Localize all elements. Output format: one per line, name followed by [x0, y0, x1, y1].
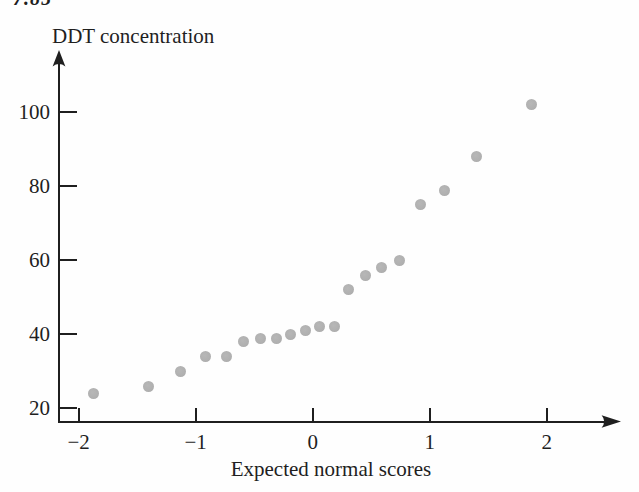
y-tick-label: 60 — [0, 247, 50, 273]
data-point — [271, 333, 282, 344]
x-axis-arrowhead-icon — [601, 415, 621, 428]
y-axis-arrowhead-icon — [52, 50, 66, 67]
data-point — [255, 333, 266, 344]
data-point — [285, 329, 296, 340]
data-point — [88, 388, 99, 399]
x-tick-label: 0 — [281, 429, 345, 455]
y-tick — [59, 185, 77, 187]
y-tick-label: 100 — [0, 99, 50, 125]
y-tick-label: 40 — [0, 321, 50, 347]
x-tick — [546, 408, 548, 422]
x-tick-label: −2 — [47, 429, 111, 455]
data-point — [175, 366, 186, 377]
data-point — [329, 321, 340, 332]
y-tick — [59, 259, 77, 261]
data-point — [238, 336, 249, 347]
y-tick-label: 80 — [0, 173, 50, 199]
x-tick-label: −1 — [164, 429, 228, 455]
y-axis-title: DDT concentration — [52, 24, 214, 49]
data-point — [439, 185, 450, 196]
x-axis-label: Expected normal scores — [211, 457, 451, 482]
data-point — [415, 199, 426, 210]
x-tick-label: 2 — [515, 429, 579, 455]
x-tick-label: 1 — [398, 429, 462, 455]
data-point — [221, 351, 232, 362]
y-tick-label: 20 — [0, 395, 50, 421]
data-point — [394, 255, 405, 266]
data-point — [471, 151, 482, 162]
data-point — [143, 381, 154, 392]
figure-page: { "page": { "header_fragment": "7.85", "… — [0, 0, 639, 492]
data-point — [526, 99, 537, 110]
x-tick — [195, 408, 197, 422]
data-point — [300, 325, 311, 336]
y-tick — [59, 333, 77, 335]
y-tick — [59, 111, 77, 113]
data-point — [343, 284, 354, 295]
page-header-fragment: 7.85 — [13, 0, 52, 10]
x-axis-line — [58, 421, 606, 423]
data-point — [200, 351, 211, 362]
x-tick — [429, 408, 431, 422]
data-point — [314, 321, 325, 332]
x-tick — [312, 408, 314, 422]
y-tick — [59, 407, 77, 409]
data-point — [376, 262, 387, 273]
data-point — [360, 270, 371, 281]
x-tick — [78, 408, 80, 422]
